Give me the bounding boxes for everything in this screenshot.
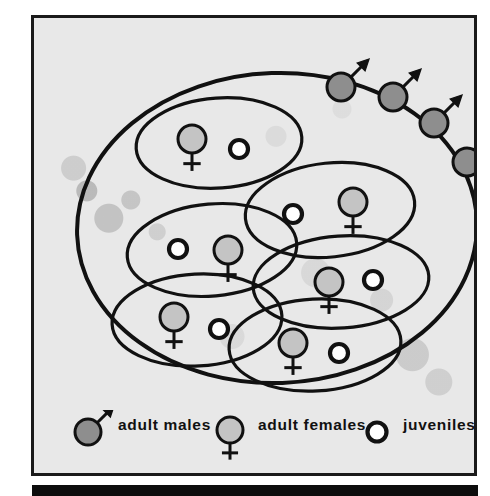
juvenile-symbol xyxy=(210,320,228,338)
juvenile-ring xyxy=(330,344,348,362)
male-4 xyxy=(453,134,474,176)
juvenile-ring xyxy=(169,240,187,258)
female-body-circle xyxy=(315,268,343,296)
juvenile-ring xyxy=(284,205,302,223)
juvenile-symbol xyxy=(364,271,382,289)
adult-female-symbol xyxy=(160,303,188,349)
male-body-circle xyxy=(379,83,407,111)
subgroup-layer xyxy=(110,92,432,395)
legend: adult malesadult femalesjuveniles xyxy=(34,410,474,476)
subgroup-1 xyxy=(133,92,305,193)
subgroup-5-outline xyxy=(110,270,285,371)
adult-female-symbol xyxy=(315,268,343,314)
adult-female-symbol xyxy=(178,125,206,171)
outside-males-layer xyxy=(327,59,474,176)
figure-page: adult malesadult femalesjuveniles xyxy=(0,0,490,496)
juvenile-symbol xyxy=(368,423,387,442)
subgroup-4 xyxy=(250,230,432,334)
outer-population-oval xyxy=(72,66,474,390)
juvenile-ring xyxy=(230,140,248,158)
female-body-circle xyxy=(339,188,367,216)
male-body-circle xyxy=(327,73,355,101)
juvenile-symbol xyxy=(330,344,348,362)
female-body-circle xyxy=(279,329,307,357)
juvenile-symbol xyxy=(169,240,187,258)
juvenile-ring xyxy=(368,423,387,442)
outer-oval-layer xyxy=(72,66,474,390)
legend-juveniles-label: juveniles xyxy=(403,416,476,434)
male-1 xyxy=(327,59,369,101)
male-3 xyxy=(420,95,462,137)
female-body-circle xyxy=(214,236,242,264)
juvenile-symbol xyxy=(230,140,248,158)
adult-female-symbol xyxy=(279,329,307,375)
male-2 xyxy=(379,69,421,111)
juvenile-ring xyxy=(364,271,382,289)
bottom-rule xyxy=(32,485,478,496)
juvenile-ring xyxy=(210,320,228,338)
figure-frame: adult malesadult femalesjuveniles xyxy=(31,15,477,476)
juvenile-symbol xyxy=(284,205,302,223)
subgroup-5 xyxy=(110,270,285,371)
legend-juveniles: juveniles xyxy=(34,410,474,440)
male-body-circle xyxy=(420,109,448,137)
male-body-circle xyxy=(453,148,474,176)
social-group-diagram xyxy=(34,18,474,473)
subgroup-1-outline xyxy=(133,92,305,193)
female-body-circle xyxy=(178,125,206,153)
female-body-circle xyxy=(160,303,188,331)
adult-female-symbol xyxy=(339,188,367,234)
